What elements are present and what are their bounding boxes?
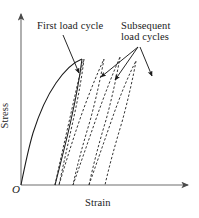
cycle-3-unloading-path [73,59,104,185]
curve-cycle-5 [89,61,136,185]
subsequent-pointer-c [140,47,152,76]
leader-subsequent-load-cycles [101,47,152,80]
leader-first-load-cycle [63,35,79,73]
annotation-subsequent-line2: load cycles [121,31,170,42]
cycle-5-reloading-path [89,61,136,185]
annotation-subsequent-line1: Subsequent [121,20,170,31]
cycle-2-unloading-path [59,59,84,185]
y-axis-label: Stress [0,103,11,129]
x-axis-label: Strain [85,197,111,208]
origin-label: O [12,184,20,196]
annotation-subsequent-load-cycles: Subsequentload cycles [121,20,170,43]
cycle-4-unloading-path [89,57,120,185]
stress-strain-figure: First load cycle Subsequentload cycles S… [0,0,199,218]
cycle-1-loading-path [21,59,82,185]
annotation-first-load-cycle: First load cycle [37,20,103,31]
first-load-cycle-pointer [63,35,79,73]
cycle-5-unloading-path [105,61,136,185]
curve-cycle-1 [21,59,82,185]
subsequent-pointer-a [101,47,138,77]
